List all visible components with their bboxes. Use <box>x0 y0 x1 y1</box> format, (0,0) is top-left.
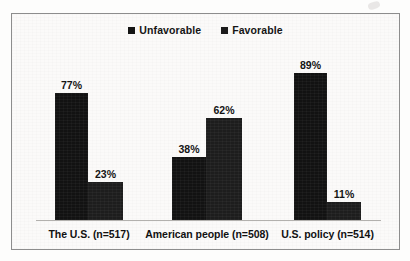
data-label: 89% <box>300 60 321 71</box>
bar-texture <box>55 93 88 220</box>
bar-favorable[interactable]: 23% <box>88 182 123 220</box>
category-label: American people (n=508) <box>145 229 268 240</box>
bar-column: 11% <box>327 34 361 220</box>
scanned-page-background: Unfavorable Favorable 77% <box>0 0 410 261</box>
bar-column: 89% <box>294 34 327 220</box>
bar-column: 62% <box>206 34 242 220</box>
bar-column: 38% <box>172 34 206 220</box>
category-label: The U.S. (n=517) <box>48 229 129 240</box>
data-label: 11% <box>334 189 354 200</box>
bar-column: 77% <box>55 34 88 220</box>
bar-group: 38% 62% American people (n=508) <box>172 34 242 220</box>
data-label: 77% <box>61 80 82 91</box>
bar-texture <box>172 157 206 220</box>
bar-column: 23% <box>88 34 123 220</box>
bar-texture <box>88 182 123 220</box>
bar-unfavorable[interactable]: 77% <box>55 93 88 220</box>
bar-texture <box>327 202 361 220</box>
scan-artifact <box>367 0 381 10</box>
bar-texture <box>206 118 242 220</box>
plot-area: 77% 23% The U.S. (n=517) <box>12 14 401 251</box>
bar-group: 89% 11% U.S. policy (n=514) <box>294 34 361 220</box>
category-label: U.S. policy (n=514) <box>281 229 374 240</box>
bar-group: 77% 23% The U.S. (n=517) <box>55 34 123 220</box>
data-label: 62% <box>213 105 234 116</box>
bar-favorable[interactable]: 11% <box>327 202 361 220</box>
data-label: 23% <box>95 169 116 180</box>
category-axis-line <box>36 220 381 221</box>
chart-frame: Unfavorable Favorable 77% <box>11 13 400 250</box>
bar-unfavorable[interactable]: 89% <box>294 73 327 220</box>
bar-unfavorable[interactable]: 38% <box>172 157 206 220</box>
bar-texture <box>294 73 327 220</box>
data-label: 38% <box>178 144 199 155</box>
bar-favorable[interactable]: 62% <box>206 118 242 220</box>
